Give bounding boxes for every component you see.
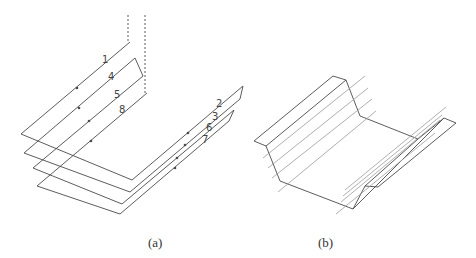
path-label-4: 4 <box>108 71 114 82</box>
path-label-3: 3 <box>212 111 218 122</box>
path-label-2: 2 <box>216 98 222 109</box>
path-label-8: 8 <box>119 104 125 115</box>
path-label-7: 7 <box>202 134 208 145</box>
path-label-1: 1 <box>102 54 108 65</box>
panel-a-labels: 1 4 5 8 2 3 6 7 <box>102 54 222 145</box>
caption-a: (a) <box>148 235 162 251</box>
diagram-canvas: 1 4 5 8 2 3 6 7 <box>0 0 476 258</box>
path-label-6: 6 <box>206 122 212 133</box>
panel-b-toolpath-lines <box>263 76 446 214</box>
panel-a-toolpaths <box>21 15 243 214</box>
panel-b-channel <box>254 76 456 209</box>
path-label-5: 5 <box>114 89 120 100</box>
caption-b: (b) <box>318 235 333 251</box>
